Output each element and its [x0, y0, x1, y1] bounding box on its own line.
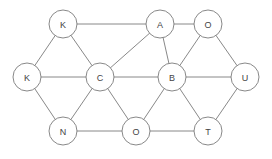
- nodes-layer: KAOKCBUNOT: [13, 10, 259, 145]
- node-label: O: [204, 20, 211, 30]
- node-k: K: [13, 63, 41, 91]
- node-label: O: [132, 127, 139, 137]
- node-label: U: [242, 73, 249, 83]
- node-o: O: [122, 117, 150, 145]
- node-a: A: [146, 10, 174, 38]
- node-label: N: [60, 127, 67, 137]
- node-label: K: [24, 73, 30, 83]
- node-k: K: [49, 10, 77, 38]
- node-label: T: [205, 127, 211, 137]
- graph-diagram: KAOKCBUNOT: [0, 0, 272, 159]
- node-label: K: [60, 20, 66, 30]
- node-n: N: [49, 117, 77, 145]
- node-o: O: [194, 10, 222, 38]
- graph-canvas: KAOKCBUNOT: [0, 0, 272, 159]
- node-b: B: [158, 63, 186, 91]
- node-c: C: [86, 63, 114, 91]
- node-label: B: [169, 73, 175, 83]
- node-label: C: [97, 73, 104, 83]
- node-label: A: [157, 20, 163, 30]
- edges-layer: [27, 24, 245, 131]
- node-t: T: [194, 117, 222, 145]
- node-u: U: [231, 63, 259, 91]
